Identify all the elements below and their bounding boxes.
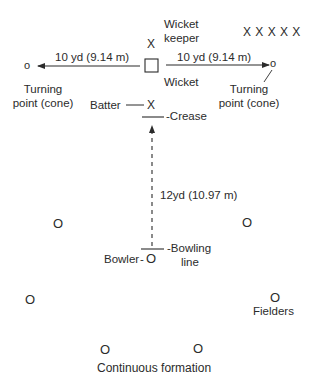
fielder-marker: O xyxy=(100,343,110,356)
fielder-marker: O xyxy=(53,217,63,230)
left-turning-label-line2: point (cone) xyxy=(10,97,76,110)
left-turning-label-line1: Turning xyxy=(10,83,76,96)
cone-pointer-line xyxy=(264,70,272,82)
left-cone-marker: o xyxy=(24,59,30,71)
fielder-marker: O xyxy=(25,293,35,306)
bowling-line-label-line1: -Bowling xyxy=(167,242,211,255)
bowling-line-label-line2: line xyxy=(181,256,199,269)
crease-label: -Crease xyxy=(166,110,207,123)
fielders-label: Fielders xyxy=(253,305,294,318)
diagram-lines xyxy=(0,0,314,391)
waiting-players-markers: X X X X X xyxy=(243,26,301,39)
bowler-marker: O xyxy=(146,253,156,265)
right-cone-marker: o xyxy=(270,57,276,69)
fielder-marker: O xyxy=(193,342,203,355)
batter-label: Batter xyxy=(90,99,121,112)
right-turning-label-line2: point (cone) xyxy=(216,97,282,110)
wicket-square-icon xyxy=(145,59,158,72)
bowl-distance-label: 12yd (10.97 m) xyxy=(160,189,237,202)
wicket-keeper-marker: X xyxy=(147,38,155,50)
fielder-marker: O xyxy=(270,291,280,304)
batter-marker: X xyxy=(147,99,155,111)
fielder-marker: O xyxy=(242,216,252,229)
bowler-label: Bowler xyxy=(104,253,139,266)
wicket-label: Wicket xyxy=(164,76,199,89)
right-distance-label: 10 yd (9.14 m) xyxy=(177,51,251,64)
left-distance-label: 10 yd (9.14 m) xyxy=(55,51,129,64)
wicket-keeper-label-line2: keeper xyxy=(164,32,199,45)
right-turning-label-line1: Turning xyxy=(216,83,282,96)
wicket-keeper-label-line1: Wicket xyxy=(164,18,199,31)
bowler-dash: - xyxy=(140,253,144,266)
formation-label: Continuous formation xyxy=(97,362,211,375)
